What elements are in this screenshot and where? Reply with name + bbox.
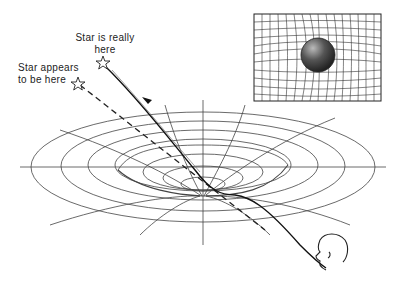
real-star-label-line2: here [70, 44, 140, 56]
spacetime-funnel [20, 100, 386, 245]
inset-grid-sphere [254, 14, 381, 101]
mass-sphere [301, 38, 335, 72]
real-star-label: Star is really here [70, 32, 140, 56]
real-star-icon [96, 56, 110, 69]
real-star-label-line1: Star is really [70, 32, 140, 44]
apparent-star-label-line1: Star appears [18, 62, 84, 74]
arrow-icon [142, 97, 152, 104]
lensing-diagram [0, 0, 399, 284]
apparent-star-label: Star appears to be here [18, 62, 84, 86]
apparent-star-label-line2: to be here [18, 74, 84, 86]
